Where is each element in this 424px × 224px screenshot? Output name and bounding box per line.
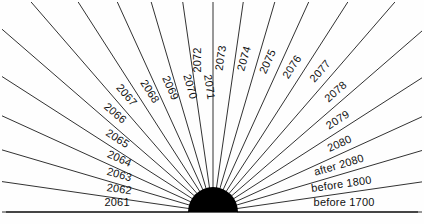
spoke-line [229, 2, 395, 194]
radial-fan-diagram: 2061206220632064206520662067206820692070… [0, 0, 424, 224]
spoke-line [78, 2, 200, 192]
fan-diagram-canvas [0, 0, 424, 224]
spoke-line [223, 2, 309, 190]
spoke-line [2, 29, 195, 196]
spoke-line [216, 2, 243, 188]
spoke-label[interactable]: before 1700 [314, 196, 375, 208]
spoke-line [2, 182, 189, 209]
spoke-label[interactable]: 2072 [191, 47, 203, 72]
spoke-line [2, 77, 193, 199]
hub-semicircle [188, 187, 238, 212]
spoke-label[interactable]: 2061 [104, 196, 129, 208]
spoke-line [2, 116, 191, 202]
